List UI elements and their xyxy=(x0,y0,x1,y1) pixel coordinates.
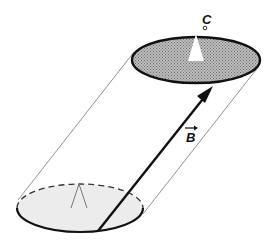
bottom-ellipse xyxy=(17,184,143,232)
vector-label: B xyxy=(186,130,195,145)
label-B: B xyxy=(185,126,198,146)
left-side-line xyxy=(18,52,134,200)
vector-B xyxy=(98,86,213,231)
label-C: C xyxy=(202,12,212,30)
right-side-line xyxy=(143,66,259,214)
vector-B-arrowhead xyxy=(197,86,213,103)
vector-B-shaft xyxy=(98,90,210,231)
top-ellipse xyxy=(132,34,260,83)
diagram-canvas: C B xyxy=(0,0,277,247)
flux-tube-diagram: C B xyxy=(0,0,277,247)
curve-label: C xyxy=(202,12,212,27)
